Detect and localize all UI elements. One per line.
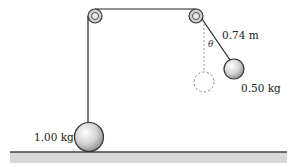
length-label: 0.74 m — [222, 29, 259, 41]
floor — [10, 152, 287, 163]
large-mass-label: 1.00 kg — [34, 131, 74, 143]
pulley-diagram: θ 0.74 m 0.50 kg 1.00 kg — [0, 0, 300, 167]
rest-position-circle — [194, 72, 214, 92]
small-mass-label: 0.50 kg — [241, 82, 281, 94]
string — [88, 9, 230, 122]
left-pulley — [88, 9, 102, 23]
angle-label: θ — [208, 39, 214, 49]
small-mass-ball — [224, 59, 244, 79]
large-mass-ball — [75, 123, 104, 152]
right-pulley — [189, 9, 203, 23]
